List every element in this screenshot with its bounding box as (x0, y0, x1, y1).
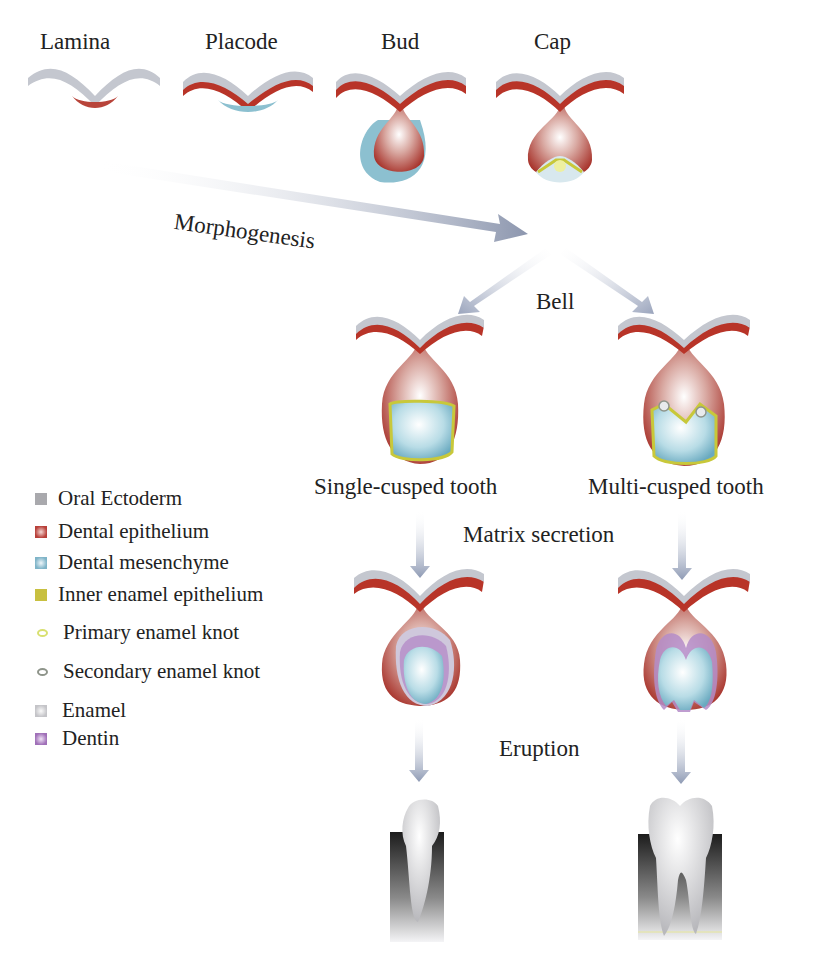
matrix-multi-illustration (618, 569, 750, 712)
stage-bud-illustration (336, 72, 466, 183)
enamel-swatch-icon (35, 705, 47, 717)
legend-item-dental-mesenchyme: Dental mesenchyme (35, 550, 229, 575)
primary-enamel-knot-icon (37, 629, 48, 637)
legend-item-primary-enamel-knot: Primary enamel knot (35, 620, 239, 645)
dental-mesenchyme-swatch-icon (35, 557, 47, 569)
bell-multi-illustration (618, 315, 750, 466)
legend-item-enamel: Enamel (35, 698, 126, 723)
multi-cusped-label: Multi-cusped tooth (588, 475, 764, 498)
erupted-single-tooth (390, 799, 444, 942)
stage-placode-illustration (183, 72, 313, 112)
oral-ectoderm-swatch-icon (35, 493, 47, 505)
legend-item-oral-ectoderm: Oral Ectoderm (35, 486, 182, 511)
stage-cap-illustration (496, 72, 624, 183)
legend-item-inner-enamel-epithelium: Inner enamel epithelium (35, 582, 263, 607)
dentin-swatch-icon (35, 733, 47, 745)
bell-single-illustration (356, 315, 484, 464)
legend-item-secondary-enamel-knot: Secondary enamel knot (35, 659, 260, 684)
legend-item-dentin: Dentin (35, 726, 119, 751)
single-cusped-label: Single-cusped tooth (314, 475, 497, 498)
inner-enamel-epithelium-swatch-icon (35, 589, 47, 601)
erupted-multi-tooth (638, 798, 722, 940)
dental-epithelium-swatch-icon (35, 526, 47, 538)
stage-lamina-illustration (28, 69, 160, 108)
bell-label: Bell (536, 290, 574, 313)
matrix-secretion-label: Matrix secretion (463, 523, 614, 546)
matrix-single-illustration (354, 569, 484, 706)
secondary-enamel-knot-icon (37, 668, 48, 676)
eruption-label: Eruption (499, 737, 580, 760)
legend-item-dental-epithelium: Dental epithelium (35, 519, 209, 544)
